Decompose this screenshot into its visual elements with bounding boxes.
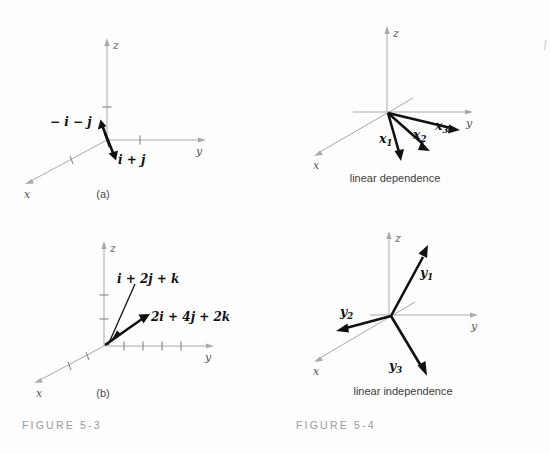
z-axis-label-dep: z — [392, 27, 399, 40]
vector-y1-label: y1 — [419, 265, 433, 282]
figure-caption-5-3: FIGURE 5-3 — [22, 419, 102, 431]
x-axis-label-dep: x — [313, 159, 320, 172]
vector-2i-4j-2k-label: 2i + 4j + 2k — [150, 310, 230, 324]
x-axis-label-a: x — [24, 188, 31, 201]
z-axis-label-indep: z — [394, 232, 401, 245]
y-axis-label-a: y — [195, 145, 203, 158]
x-axis-label-b: x — [36, 387, 43, 400]
z-axis-label-b: z — [109, 242, 116, 255]
vector-x2-label: x2 — [412, 127, 426, 144]
y-axis-arrowhead-b — [206, 343, 214, 348]
vector-x3-sub: 3 — [442, 125, 448, 135]
vector-i-plus-j-shaft — [105, 133, 114, 154]
linear-dependence-caption: linear dependence — [350, 172, 441, 184]
vector-x3-label: x3 — [434, 118, 448, 135]
panel-a: z y x − i − j i + j (a) — [0, 0, 275, 215]
x-axis-line-b — [40, 346, 104, 380]
z-axis-arrowhead-indep — [386, 231, 391, 239]
y-axis-label-indep: y — [470, 320, 478, 333]
z-axis-arrowhead-a — [104, 38, 109, 46]
panel-linear-independence: z y x y1 y2 y3 — [275, 215, 550, 415]
vector-x1-arrowhead — [395, 149, 405, 161]
y-axis-label-dep: y — [465, 117, 473, 130]
linear-independence-caption: linear independence — [353, 385, 452, 397]
vector-2i-4j-2k-shaft — [105, 319, 142, 345]
x-axis-line-a — [31, 140, 107, 181]
vector-i-plus-j-label: i + j — [118, 153, 146, 167]
vector-x1-label: x1 — [378, 131, 392, 148]
y-axis-label-b: y — [204, 351, 212, 364]
figure-caption-5-4: FIGURE 5-4 — [296, 419, 376, 431]
page-edge-mark: l — [543, 38, 547, 54]
vector-i-2j-k-label: i + 2j + k — [117, 272, 179, 286]
panel-a-letter: (a) — [96, 188, 109, 200]
z-axis-arrowhead-b — [101, 241, 106, 249]
vector-y3-sub: 3 — [396, 365, 402, 375]
x-axis-tick-b-1 — [86, 352, 89, 360]
vector-y2-arrowhead — [336, 324, 349, 333]
vector-x3-arrowhead — [448, 125, 460, 134]
z-axis-arrowhead-dep — [384, 26, 389, 34]
panel-b: z y x i + 2j + k 2i + 4j + 2k — [0, 215, 275, 415]
vector-y2-label: y2 — [339, 304, 353, 321]
figure-sheet: z y x − i − j i + j (a) — [0, 0, 550, 454]
z-axis-label-a: z — [112, 39, 119, 52]
vector-i-plus-j-arrowhead — [109, 151, 119, 161]
vector-x2-sub: 2 — [419, 134, 426, 144]
x-axis-tick-b-2 — [68, 362, 71, 370]
x-axis-line-dep — [320, 98, 413, 152]
vector-x1-sub: 1 — [386, 138, 392, 148]
vector-y1-arrowhead — [419, 245, 429, 258]
vector-i-2j-k-leader — [108, 284, 135, 345]
panel-b-letter: (b) — [96, 387, 109, 399]
x-axis-label-indep: x — [313, 365, 320, 378]
vector-y2-sub: 2 — [346, 311, 353, 321]
y-axis-arrowhead-indep — [470, 312, 478, 317]
vector-neg-i-neg-j-label: − i − j — [50, 115, 92, 129]
vector-y1-sub: 1 — [427, 272, 433, 282]
y-axis-arrowhead-a — [198, 137, 206, 142]
panel-linear-dependence: z y x x1 x2 x3 — [275, 0, 550, 215]
vector-y3-label: y3 — [388, 358, 402, 375]
y-axis-arrowhead-dep — [465, 109, 473, 114]
